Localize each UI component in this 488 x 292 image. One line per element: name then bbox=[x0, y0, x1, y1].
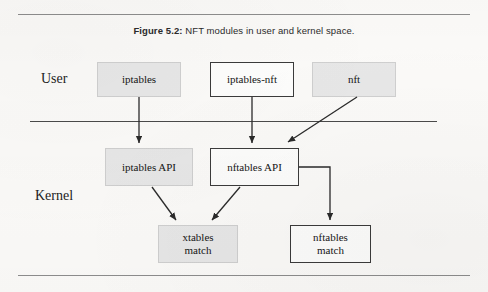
edge-iptables-api-to-xtables-match bbox=[152, 187, 176, 220]
edge-nft-to-nftables-api bbox=[288, 97, 357, 142]
edge-layer bbox=[0, 0, 488, 292]
figure-page: Figure 5.2: NFT modules in user and kern… bbox=[0, 0, 488, 292]
edge-nftables-api-to-xtables-match bbox=[212, 187, 240, 220]
edge-nftables-api-to-nftables-match bbox=[299, 167, 330, 220]
bottom-horizontal-rule bbox=[18, 275, 470, 276]
